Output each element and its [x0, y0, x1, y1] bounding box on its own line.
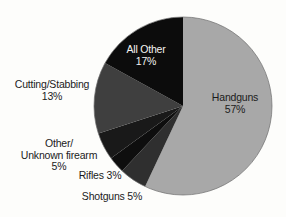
label-all-other-name: All Other [126, 43, 165, 55]
label-rifles: Rifles 3% [79, 169, 122, 181]
label-handguns: Handguns 57% [212, 91, 258, 115]
label-shotguns-pct: 5% [127, 190, 142, 202]
label-shotguns-name: Shotguns [82, 190, 125, 202]
label-all-other-pct: 17% [126, 55, 165, 67]
label-handguns-name: Handguns [212, 91, 258, 103]
label-handguns-pct: 57% [212, 103, 258, 115]
label-rifles-name: Rifles [79, 169, 104, 181]
label-shotguns: Shotguns 5% [82, 190, 142, 202]
label-other-unknown-line1: Other/ [21, 138, 97, 150]
label-other-unknown-firearm: Other/ Unknown firearm 5% [21, 138, 97, 173]
label-cutting-stabbing-name: Cutting/Stabbing [15, 78, 89, 90]
pie-chart-figure: All Other 17% Handguns 57% Cutting/Stabb… [0, 0, 286, 217]
label-cutting-stabbing-pct: 13% [15, 90, 89, 102]
label-all-other: All Other 17% [126, 43, 165, 67]
label-rifles-pct: 3% [107, 169, 122, 181]
label-cutting-stabbing: Cutting/Stabbing 13% [15, 78, 89, 102]
